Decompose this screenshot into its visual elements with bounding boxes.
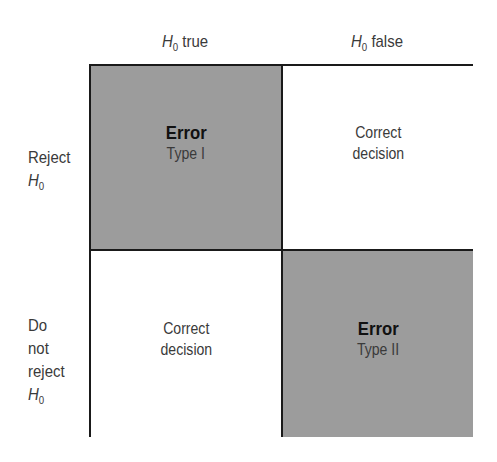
- subscript: 0: [39, 180, 44, 192]
- cell-text-line: Correct: [163, 318, 209, 339]
- cell-subtitle: Type II: [357, 340, 399, 360]
- cell-title: Error: [358, 318, 399, 340]
- row-label-line: Reject: [28, 146, 70, 169]
- decision-matrix: Error Type I Correct decision Correct de…: [89, 64, 473, 437]
- column-header-h0-true: H0 true: [101, 32, 270, 53]
- cell-text-line: decision: [160, 339, 212, 360]
- cell-title: Error: [166, 122, 207, 144]
- subscript: 0: [173, 41, 178, 53]
- subscript: 0: [362, 41, 367, 53]
- hypothesis-symbol: H: [162, 32, 173, 51]
- cell-correct-decision-not-reject: Correct decision: [91, 251, 281, 437]
- row-label-do-not-reject-h0: Do not reject H0: [28, 314, 65, 412]
- cell-text-line: Correct: [355, 122, 401, 143]
- cell-correct-decision-reject: Correct decision: [283, 66, 473, 249]
- column-header-label: true: [182, 32, 208, 51]
- cell-text-line: decision: [352, 143, 404, 164]
- hypothesis-symbol: H: [351, 32, 362, 51]
- cell-type-two-error: Error Type II: [283, 251, 473, 437]
- hypothesis-symbol: H: [28, 171, 39, 190]
- hypothesis-symbol: H: [28, 385, 39, 404]
- row-label-reject-h0: Reject H0: [28, 146, 70, 198]
- row-label-line: Do: [28, 314, 65, 337]
- row-label-line: not: [28, 337, 65, 360]
- column-header-label: false: [371, 32, 403, 51]
- row-label-line: reject: [28, 360, 65, 383]
- subscript: 0: [39, 394, 44, 406]
- cell-subtitle: Type I: [167, 144, 205, 164]
- column-header-h0-false: H0 false: [293, 32, 462, 53]
- cell-type-one-error: Error Type I: [91, 66, 281, 249]
